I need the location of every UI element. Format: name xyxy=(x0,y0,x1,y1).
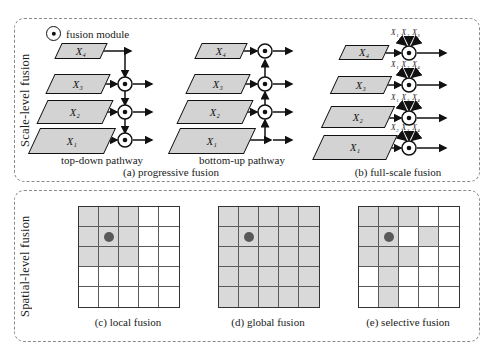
feature-map-x3: X₃ xyxy=(330,76,392,94)
anchor-point-dot xyxy=(384,232,394,242)
grid-cell xyxy=(279,227,299,247)
grid-cell xyxy=(79,207,99,227)
grid-cell xyxy=(99,247,119,267)
grid-e xyxy=(358,206,460,308)
grid-cell xyxy=(119,287,139,307)
grid-cell xyxy=(439,227,459,247)
feature-map-x2: X₂ xyxy=(36,100,113,124)
full-scale-group: X₁ X₂ X₃ X₁ X₂ X₄ X₁ X₃ X₄ X₂ X₃ X₄ X₄ X… xyxy=(320,40,476,158)
grid-cell xyxy=(79,227,99,247)
grid-cell xyxy=(259,227,279,247)
grid-cell xyxy=(79,267,99,287)
grid-cell xyxy=(299,267,319,287)
grid-cell xyxy=(259,247,279,267)
grid-cell xyxy=(259,207,279,227)
caption-full-scale-fusion: (b) full-scale fusion xyxy=(320,166,476,178)
grid-cell xyxy=(99,267,119,287)
caption-global-fusion: (d) global fusion xyxy=(198,316,338,328)
grid-cell xyxy=(239,227,259,247)
grid-cell xyxy=(119,227,139,247)
subpanel-full-scale-fusion: X₁ X₂ X₃ X₁ X₂ X₄ X₁ X₃ X₄ X₂ X₃ X₄ X₄ X… xyxy=(320,18,476,164)
caption-progressive-fusion: (a) progressive fusion xyxy=(36,166,306,178)
grid-cell xyxy=(419,207,439,227)
feature-map-x1: X₁ xyxy=(28,128,116,154)
grid-cell xyxy=(159,287,179,307)
grid-cell xyxy=(439,207,459,227)
feature-map-x4: X₄ xyxy=(194,43,247,59)
grid-cell xyxy=(239,207,259,227)
grid-cell xyxy=(359,207,379,227)
input-sources-x1: X₂ X₃ X₄ xyxy=(391,123,420,132)
grid-cell xyxy=(399,287,419,307)
grid-cell xyxy=(279,287,299,307)
top-down-pathway-caption: top-down pathway xyxy=(38,154,166,166)
grid-cell xyxy=(379,247,399,267)
grid-cell xyxy=(419,227,439,247)
input-sources-x4: X₁ X₂ X₃ xyxy=(391,28,420,37)
grid-cell xyxy=(99,287,119,307)
grid-cell xyxy=(139,267,159,287)
grid-cell xyxy=(359,267,379,287)
grid-cell xyxy=(139,227,159,247)
grid-local-fusion: (c) local fusion xyxy=(78,206,180,308)
grid-cell xyxy=(279,207,299,227)
grid-cell xyxy=(159,227,179,247)
grid-cell xyxy=(399,207,419,227)
grid-cell xyxy=(399,267,419,287)
grid-cell xyxy=(159,267,179,287)
grid-cell xyxy=(419,287,439,307)
grid-cell xyxy=(119,207,139,227)
grid-cell xyxy=(219,247,239,267)
spatial-level-fusion-label: Spatial-level fusion xyxy=(18,200,33,332)
grid-cell xyxy=(79,287,99,307)
caption-local-fusion: (c) local fusion xyxy=(58,316,198,328)
grid-cell xyxy=(159,207,179,227)
grid-global-fusion: (d) global fusion xyxy=(218,206,320,308)
grid-cell xyxy=(299,287,319,307)
grid-cell xyxy=(419,247,439,267)
feature-map-x2: X₂ xyxy=(176,100,253,124)
grid-cell xyxy=(379,227,399,247)
grid-cell xyxy=(139,287,159,307)
grid-cell xyxy=(159,247,179,267)
grid-cell xyxy=(139,247,159,267)
feature-map-x1: X₁ xyxy=(168,128,256,154)
feature-map-x2: X₂ xyxy=(321,106,395,128)
grid-cell xyxy=(439,267,459,287)
grid-cell xyxy=(119,247,139,267)
grid-cell xyxy=(379,207,399,227)
grid-cell xyxy=(379,287,399,307)
caption-selective-fusion: (e) selective fusion xyxy=(338,316,478,328)
grid-cell xyxy=(219,227,239,247)
grid-cell xyxy=(299,207,319,227)
grid-cell xyxy=(219,207,239,227)
anchor-point-dot xyxy=(104,232,114,242)
grid-cell xyxy=(259,267,279,287)
grid-cell xyxy=(119,267,139,287)
grid-cell xyxy=(239,267,259,287)
grid-c xyxy=(78,206,180,308)
grid-cell xyxy=(139,207,159,227)
anchor-point-dot xyxy=(244,232,254,242)
grid-cell xyxy=(279,267,299,287)
grid-cell xyxy=(99,227,119,247)
grid-cell xyxy=(279,247,299,267)
grid-cell xyxy=(419,267,439,287)
grid-cell xyxy=(219,267,239,287)
grid-cell xyxy=(399,247,419,267)
grid-cell xyxy=(359,247,379,267)
input-sources-x3: X₁ X₂ X₄ xyxy=(391,60,420,69)
subpanel-progressive-fusion: X₄ X₃ X₂ X₁ top-down pathway xyxy=(36,18,306,164)
feature-map-x3: X₃ xyxy=(45,74,110,94)
grid-cell xyxy=(379,267,399,287)
grid-cell xyxy=(79,247,99,267)
grid-cell xyxy=(299,247,319,267)
grid-cell xyxy=(239,287,259,307)
feature-map-x3: X₃ xyxy=(185,74,250,94)
grid-cell xyxy=(259,287,279,307)
feature-map-x4: X₄ xyxy=(339,45,390,60)
grid-selective-fusion: (e) selective fusion xyxy=(358,206,460,308)
grid-cell xyxy=(439,247,459,267)
grid-cell xyxy=(99,207,119,227)
grid-cell xyxy=(219,287,239,307)
